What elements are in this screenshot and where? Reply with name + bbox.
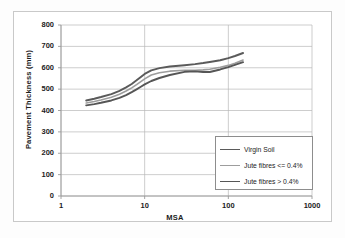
series-line-2	[86, 62, 243, 105]
y-tick-700: 700	[28, 41, 54, 50]
legend-item-2: Jute fibres > 0.4%	[220, 173, 312, 189]
legend-label: Jute fibres > 0.4%	[244, 178, 299, 185]
y-tick-600: 600	[28, 63, 54, 72]
y-tick-200: 200	[28, 148, 54, 157]
series-lines	[86, 53, 243, 105]
y-tick-100: 100	[28, 170, 54, 179]
x-tick-1: 1	[46, 201, 76, 210]
y-tick-500: 500	[28, 84, 54, 93]
y-tick-800: 800	[28, 20, 54, 29]
legend-line-swatch	[220, 181, 240, 182]
legend-label: Virgin Soil	[244, 146, 274, 153]
x-tick-100: 100	[213, 201, 243, 210]
legend-label: Jute fibres <= 0.4%	[244, 162, 303, 169]
x-tick-1000: 1000	[297, 201, 327, 210]
legend-item-1: Jute fibres <= 0.4%	[220, 157, 312, 173]
legend-item-0: Virgin Soil	[220, 141, 312, 157]
x-axis-title: MSA	[120, 213, 230, 222]
y-tick-0: 0	[28, 191, 54, 200]
legend-line-swatch	[220, 149, 240, 150]
chart-figure: Pavement Thickness (mm) MSA 800700600500…	[0, 0, 345, 238]
chart-legend: Virgin SoilJute fibres <= 0.4%Jute fibre…	[215, 136, 313, 190]
y-tick-300: 300	[28, 127, 54, 136]
x-tick-10: 10	[130, 201, 160, 210]
legend-line-swatch	[220, 165, 240, 166]
y-tick-400: 400	[28, 106, 54, 115]
